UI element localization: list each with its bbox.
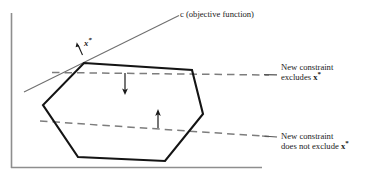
optimal-vertex-label-star: *: [88, 36, 92, 44]
annotation-not-excludes-line2: does not exclude x*: [281, 141, 349, 151]
figure-canvas: c (objective function) x* New constraint…: [0, 0, 372, 178]
constraint-line-not-excludes: [40, 121, 269, 137]
annotation-not-excludes-line1: New constraint: [281, 131, 349, 141]
annotation-excludes-star: *: [318, 70, 322, 78]
down-arrow-icon: [122, 73, 128, 95]
annotation-excludes-line1: New constraint: [281, 62, 333, 72]
annotation-excludes-prefix: excludes: [281, 72, 313, 82]
objective-function-line: [24, 16, 179, 93]
constraint-line-excludes: [52, 73, 269, 76]
xstar-pointer-arrow-icon: [76, 42, 83, 55]
annotation-not-excludes-star: *: [345, 139, 349, 147]
objective-function-label: c (objective function): [180, 9, 254, 19]
annotation-not-excludes: New constraint does not exclude x*: [281, 131, 349, 151]
optimal-vertex-label: x*: [84, 38, 92, 48]
objective-function-label-text: c (objective function): [180, 9, 254, 19]
annotation-excludes-line2: excludes x*: [281, 72, 333, 82]
annotation-excludes: New constraint excludes x*: [281, 62, 333, 82]
figure-vector-layer: [0, 0, 372, 178]
feasible-polygon: [43, 63, 203, 161]
up-arrow-icon: [155, 109, 161, 128]
annotation-not-excludes-prefix: does not exclude: [281, 141, 341, 151]
leader-line-lower: [262, 136, 277, 137]
